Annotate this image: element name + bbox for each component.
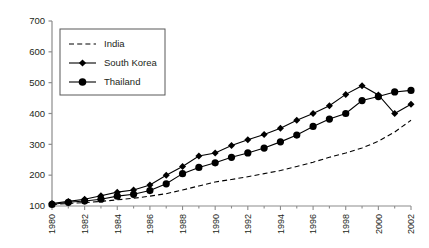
chart-canvas: 1002003004005006007001980198219841986198…: [0, 0, 429, 248]
y-tick-label: 400: [29, 108, 45, 119]
x-tick-label: 1998: [341, 214, 351, 234]
data-point: [244, 136, 251, 143]
x-tick-label: 1996: [308, 214, 318, 234]
x-tick-label: 2000: [374, 214, 384, 234]
legend-label: South Korea: [104, 57, 158, 68]
data-point: [293, 131, 300, 138]
line-chart: 1002003004005006007001980198219841986198…: [0, 0, 429, 248]
y-tick-label: 100: [29, 200, 45, 211]
data-point: [359, 82, 366, 89]
data-point: [228, 154, 235, 161]
y-tick-label: 500: [29, 77, 45, 88]
data-point: [97, 196, 104, 203]
data-point: [342, 110, 349, 117]
data-point: [407, 87, 414, 94]
data-point: [375, 93, 382, 100]
data-point: [212, 149, 219, 156]
data-point: [179, 170, 186, 177]
data-point: [342, 91, 349, 98]
y-tick-label: 300: [29, 139, 45, 150]
y-tick-label: 700: [29, 15, 45, 26]
data-point: [309, 123, 316, 130]
data-point: [277, 125, 284, 132]
data-point: [81, 197, 88, 204]
data-point: [261, 131, 268, 138]
data-point: [391, 88, 398, 95]
series-group: [48, 82, 414, 208]
x-tick-label: 1992: [243, 214, 253, 234]
data-point: [163, 180, 170, 187]
data-point: [261, 144, 268, 151]
y-tick-label: 200: [29, 169, 45, 180]
data-point: [310, 110, 317, 117]
data-point: [408, 101, 415, 108]
x-tick-label: 2002: [406, 214, 416, 234]
x-tick-label: 1982: [80, 214, 90, 234]
data-point: [146, 187, 153, 194]
data-point: [130, 191, 137, 198]
plot-area: 1002003004005006007001980198219841986198…: [29, 15, 416, 234]
data-point: [293, 117, 300, 124]
data-point: [195, 164, 202, 171]
x-tick-label: 1986: [145, 214, 155, 234]
series-line: [52, 120, 411, 204]
x-tick-label: 1988: [178, 214, 188, 234]
data-point: [114, 193, 121, 200]
y-tick-label: 600: [29, 46, 45, 57]
legend: IndiaSouth KoreaThailand: [60, 29, 165, 95]
x-tick-label: 1990: [211, 214, 221, 234]
legend-marker: [79, 78, 87, 86]
data-point: [212, 159, 219, 166]
data-point: [65, 199, 72, 206]
data-point: [244, 149, 251, 156]
data-point: [179, 163, 186, 170]
x-tick-label: 1984: [113, 214, 123, 234]
x-tick-label: 1980: [47, 214, 57, 234]
data-point: [195, 153, 202, 160]
data-point: [228, 142, 235, 149]
data-point: [358, 97, 365, 104]
legend-label: India: [104, 38, 125, 49]
data-point: [48, 201, 55, 208]
data-point: [326, 115, 333, 122]
data-point: [326, 102, 333, 109]
x-tick-label: 1994: [276, 214, 286, 234]
data-point: [163, 172, 170, 179]
legend-label: Thailand: [104, 76, 140, 87]
data-point: [277, 138, 284, 145]
